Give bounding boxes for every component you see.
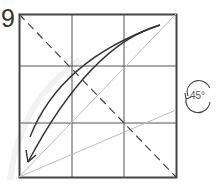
rotation-label: 45° [190, 90, 205, 101]
origami-diagram: 45° [0, 0, 216, 190]
